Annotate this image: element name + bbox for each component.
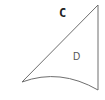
geometry-diagram: C D (0, 0, 105, 100)
label-c: C (59, 6, 66, 20)
curved-base-edge (22, 77, 98, 90)
label-d: D (73, 51, 80, 62)
